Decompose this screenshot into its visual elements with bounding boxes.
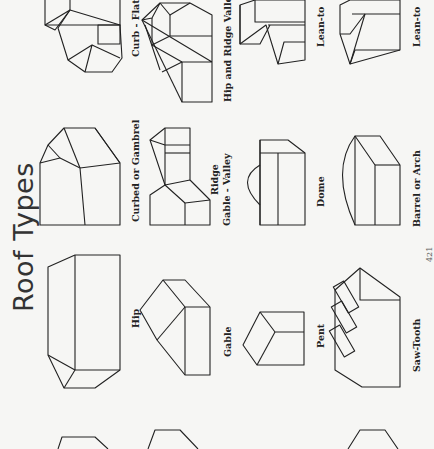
page-title: Roof Types xyxy=(8,162,39,312)
curbed-gambrel-drawing xyxy=(40,128,120,225)
saw-tooth-drawing xyxy=(329,268,400,387)
label-lean-to-2: Lean-to xyxy=(411,7,422,47)
label-hip-and-ridge-valley: Hip and Ridge Valley xyxy=(222,0,233,102)
label-hip: Hip xyxy=(130,309,141,328)
dome-drawing xyxy=(248,140,306,225)
gable-drawing xyxy=(243,312,304,365)
hip-and-ridge-valley-left-drawing xyxy=(142,3,212,102)
barrel-arch-drawing xyxy=(343,136,401,225)
label-barrel-arch: Barrel or Arch xyxy=(411,150,422,227)
hip-and-ridge-valley-drawing xyxy=(240,0,305,64)
hip-drawing-small xyxy=(140,280,210,375)
label-curbed-gambrel: Curbed or Gambrel xyxy=(130,120,141,222)
document-page: Roof Types Curb - Flat Curbed or Gambrel… xyxy=(0,0,434,449)
roof-drawings xyxy=(0,0,434,449)
lean-to-drawing-top xyxy=(340,0,400,64)
page-number: 421 xyxy=(425,247,434,262)
bottom-partial-drawings xyxy=(58,430,398,449)
label-gable: Gable xyxy=(222,326,233,357)
curb-flat-drawing xyxy=(45,0,122,72)
label-lean-to-1: Lean-to xyxy=(315,7,326,47)
hip-drawing-large xyxy=(48,255,120,388)
label-ridge: Ridge xyxy=(209,164,220,195)
label-saw-tooth: Saw-Tooth xyxy=(411,318,422,372)
label-dome: Dome xyxy=(315,176,326,207)
label-curb-flat: Curb - Flat xyxy=(130,0,141,57)
gable-valley-drawing xyxy=(150,128,210,225)
label-pent: Pent xyxy=(315,324,326,348)
label-gable-valley: Gable - Valley xyxy=(221,153,232,226)
